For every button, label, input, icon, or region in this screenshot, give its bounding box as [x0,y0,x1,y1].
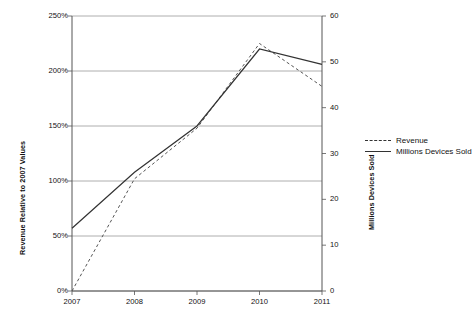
axis-tick-marks [68,16,326,295]
y-axis-right-tick-label: 50 [330,57,356,66]
y-axis-left-tick-label: 100% [28,176,68,185]
legend-item: Millions Devices Sold [365,146,472,157]
y-axis-right-tick-label: 30 [330,149,356,158]
x-axis-tick-label: 2010 [240,297,280,306]
y-axis-left-title: Revenue Relative to 2007 Values [18,141,27,255]
y-axis-left-tick-label: 150% [28,121,68,130]
y-axis-right-tick-label: 60 [330,11,356,20]
x-axis-tick-label: 2007 [52,297,92,306]
y-axis-right-tick-label: 0 [330,286,356,295]
legend-item: Revenue [365,135,472,146]
y-axis-right-tick-label: 40 [330,103,356,112]
x-axis-tick-label: 2009 [177,297,217,306]
y-axis-left-tick-label: 200% [28,66,68,75]
y-axis-right-tick-label: 20 [330,194,356,203]
legend-line-swatch-dashed [365,136,391,145]
y-axis-right-tick-label: 10 [330,240,356,249]
legend-item-label: Revenue [396,136,428,146]
data-series-group [72,44,322,292]
x-axis-tick-label: 2008 [115,297,155,306]
y-axis-right-title: Millions Devices Sold [367,154,376,230]
chart-legend: RevenueMillions Devices Sold [365,135,472,157]
series-line-millions-devices-sold [72,49,322,228]
gridlines [72,16,322,291]
y-axis-left-tick-label: 250% [28,11,68,20]
y-axis-left-tick-label: 0% [28,286,68,295]
legend-item-label: Millions Devices Sold [396,147,472,157]
series-line-revenue [72,44,322,292]
y-axis-left-tick-label: 50% [28,231,68,240]
x-axis-tick-label: 2011 [302,297,342,306]
legend-line-swatch-solid [365,147,391,156]
